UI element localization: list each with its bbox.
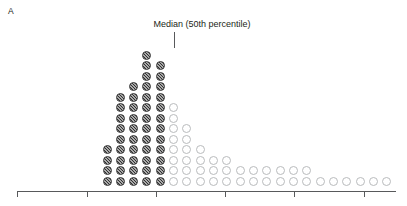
hatched-dot: [129, 177, 138, 186]
hatched-dot: [116, 93, 125, 102]
open-dot: [222, 177, 231, 186]
hatched-dot: [116, 145, 125, 154]
open-dot: [329, 177, 338, 186]
hatched-dot: [142, 124, 151, 133]
x-axis-tick-0: [17, 191, 18, 197]
hatched-dot: [156, 114, 165, 123]
open-dot: [169, 156, 178, 165]
hatched-dot: [142, 135, 151, 144]
open-dot: [249, 166, 258, 175]
hatched-dot: [142, 145, 151, 154]
open-dot: [369, 177, 378, 186]
open-dot: [182, 124, 191, 133]
open-dot: [342, 177, 351, 186]
open-dot: [236, 166, 245, 175]
hatched-dot: [129, 103, 138, 112]
hatched-dot: [142, 72, 151, 81]
open-dot: [209, 177, 218, 186]
open-dot: [302, 177, 311, 186]
panel-label-a: A: [8, 6, 14, 16]
dot-plot-figure: A Median (50th percentile): [0, 0, 407, 206]
open-dot: [289, 166, 298, 175]
open-dot: [169, 135, 178, 144]
median-label: Median (50th percentile): [153, 19, 250, 29]
open-dot: [196, 145, 205, 154]
hatched-dot: [116, 135, 125, 144]
hatched-dot: [116, 114, 125, 123]
open-dot: [302, 166, 311, 175]
open-dot: [182, 166, 191, 175]
hatched-dot: [142, 156, 151, 165]
hatched-dot: [129, 93, 138, 102]
hatched-dot: [156, 93, 165, 102]
x-axis-tick-4: [294, 191, 295, 197]
hatched-dot: [103, 145, 112, 154]
hatched-dot: [156, 177, 165, 186]
hatched-dot: [156, 124, 165, 133]
x-axis-tick-1: [87, 191, 88, 197]
open-dot: [169, 124, 178, 133]
open-dot: [222, 156, 231, 165]
hatched-dot: [142, 51, 151, 60]
open-dot: [382, 177, 391, 186]
x-axis-line: [17, 191, 396, 192]
hatched-dot: [129, 114, 138, 123]
hatched-dot: [156, 103, 165, 112]
open-dot: [196, 156, 205, 165]
hatched-dot: [142, 61, 151, 70]
open-dot: [196, 166, 205, 175]
open-dot: [236, 177, 245, 186]
hatched-dot: [116, 103, 125, 112]
open-dot: [182, 135, 191, 144]
open-dot: [276, 177, 285, 186]
open-dot: [182, 177, 191, 186]
open-dot: [262, 177, 271, 186]
open-dot: [182, 145, 191, 154]
hatched-dot: [103, 166, 112, 175]
hatched-dot: [156, 135, 165, 144]
open-dot: [169, 145, 178, 154]
hatched-dot: [156, 61, 165, 70]
hatched-dot: [129, 156, 138, 165]
open-dot: [276, 166, 285, 175]
x-axis-tick-3: [225, 191, 226, 197]
hatched-dot: [156, 166, 165, 175]
open-dot: [316, 177, 325, 186]
open-dot: [182, 156, 191, 165]
hatched-dot: [103, 177, 112, 186]
open-dot: [356, 177, 365, 186]
hatched-dot: [116, 156, 125, 165]
hatched-dot: [116, 166, 125, 175]
hatched-dot: [142, 82, 151, 91]
median-pointer-line: [174, 32, 175, 48]
open-dot: [169, 103, 178, 112]
open-dot: [169, 166, 178, 175]
open-dot: [209, 166, 218, 175]
hatched-dot: [156, 82, 165, 91]
open-dot: [289, 177, 298, 186]
hatched-dot: [156, 156, 165, 165]
hatched-dot: [129, 124, 138, 133]
hatched-dot: [142, 177, 151, 186]
hatched-dot: [142, 93, 151, 102]
hatched-dot: [142, 166, 151, 175]
x-axis-tick-5: [364, 191, 365, 197]
open-dot: [262, 166, 271, 175]
hatched-dot: [103, 156, 112, 165]
hatched-dot: [156, 72, 165, 81]
open-dot: [169, 177, 178, 186]
hatched-dot: [142, 103, 151, 112]
hatched-dot: [129, 166, 138, 175]
open-dot: [196, 177, 205, 186]
hatched-dot: [129, 82, 138, 91]
median-annotation: Median (50th percentile): [0, 0, 407, 206]
open-dot: [222, 166, 231, 175]
hatched-dot: [129, 145, 138, 154]
hatched-dot: [129, 135, 138, 144]
hatched-dot: [116, 177, 125, 186]
hatched-dot: [116, 124, 125, 133]
hatched-dot: [156, 145, 165, 154]
hatched-dot: [142, 114, 151, 123]
open-dot: [169, 114, 178, 123]
open-dot: [209, 156, 218, 165]
